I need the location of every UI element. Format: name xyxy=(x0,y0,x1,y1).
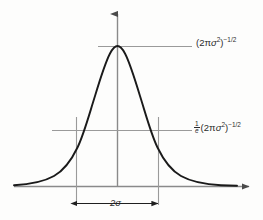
width-label: 2σ xyxy=(110,198,121,208)
e-fold-amplitude-label: 1 e (2πσ2)−1/2 xyxy=(194,121,241,135)
peak-amplitude-label: (2πσ2)−1/2 xyxy=(196,37,236,47)
figure-canvas xyxy=(0,0,263,220)
gaussian-curve xyxy=(14,46,237,186)
sigma-symbol: σ xyxy=(115,197,121,208)
peak-outer-exponent: −1/2 xyxy=(224,36,237,43)
gaussian-figure: (2πσ2)−1/2 1 e (2πσ2)−1/2 2σ xyxy=(0,0,263,220)
one-over-e-fraction: 1 e xyxy=(194,121,200,135)
efold-outer-exponent: −1/2 xyxy=(228,121,241,128)
fraction-denominator: e xyxy=(194,127,200,135)
